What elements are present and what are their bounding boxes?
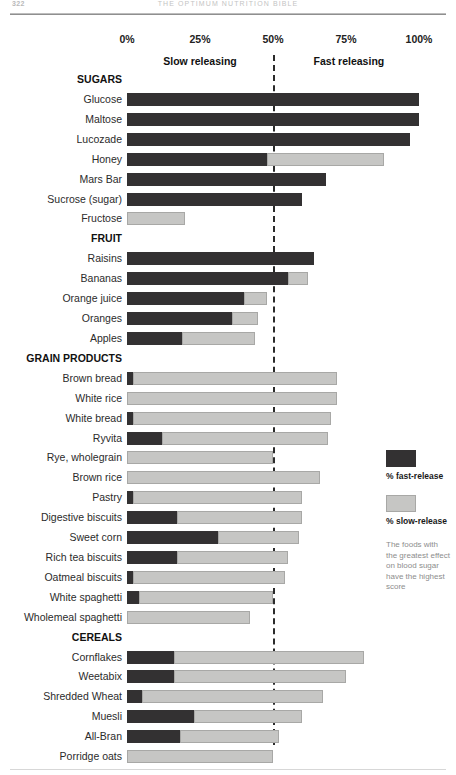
stacked-bar <box>127 511 302 524</box>
bar-segment-slow-release <box>218 531 300 544</box>
bar-row-label: Weetabix <box>4 670 122 683</box>
bar-row-label: White rice <box>4 392 122 405</box>
chart-legend: % fast-release % slow-release The foods … <box>386 450 456 593</box>
legend-label-fast-release: % fast-release <box>386 471 456 481</box>
bar-segment-slow-release <box>127 392 337 405</box>
bar-segment-fast-release <box>127 710 194 723</box>
chart-bar-row: All-Bran <box>0 730 456 743</box>
stacked-bar <box>127 173 326 186</box>
chart-bar-row: Weetabix <box>0 670 456 683</box>
x-axis-tick-labels: 0%25%50%75%100% <box>0 33 456 49</box>
legend-note: The foods with the greatest effect on bl… <box>386 540 450 593</box>
section-heading: GRAIN PRODUCTS <box>0 352 456 365</box>
band-label-slow-releasing: Slow releasing <box>163 55 237 67</box>
section-heading: SUGARS <box>0 73 456 86</box>
chart-bar-row: Mars Bar <box>0 173 456 186</box>
chart-bar-row: Wholemeal spaghetti <box>0 611 456 624</box>
bar-row-label: Porridge oats <box>4 750 122 763</box>
legend-swatch-fast-release <box>386 450 416 467</box>
bar-segment-slow-release <box>244 292 267 305</box>
bar-row-label: Oatmeal biscuits <box>4 571 122 584</box>
stacked-bar <box>127 710 302 723</box>
bar-segment-fast-release <box>127 591 139 604</box>
bar-row-label: Sucrose (sugar) <box>4 193 122 206</box>
x-axis-tick-100: 100% <box>406 33 433 45</box>
bar-row-label: White spaghetti <box>4 591 122 604</box>
bar-row-label: Raisins <box>4 252 122 265</box>
bar-row-label: Lucozade <box>4 133 122 146</box>
bar-segment-fast-release <box>127 93 419 106</box>
chart-bar-row: White rice <box>0 392 456 405</box>
bar-segment-fast-release <box>127 173 326 186</box>
bar-segment-slow-release <box>127 212 185 225</box>
bar-row-label: Bananas <box>4 272 122 285</box>
chart-page: 322 THE OPTIMUM NUTRITION BIBLE 0%25%50%… <box>0 0 456 775</box>
chart-bar-row: Orange juice <box>0 292 456 305</box>
stacked-bar <box>127 193 302 206</box>
bar-segment-slow-release <box>133 412 332 425</box>
chart-bar-row: Ryvita <box>0 432 456 445</box>
bar-row-label: Rye, wholegrain <box>4 451 122 464</box>
stacked-bar <box>127 93 419 106</box>
chart-bar-row: Maltose <box>0 113 456 126</box>
bar-segment-slow-release <box>288 272 308 285</box>
chart-bar-row: Bananas <box>0 272 456 285</box>
bar-row-label: Mars Bar <box>4 173 122 186</box>
chart-bar-row: Lucozade <box>0 133 456 146</box>
chart-bar-row: Shredded Wheat <box>0 690 456 703</box>
bar-segment-fast-release <box>127 312 232 325</box>
stacked-bar <box>127 611 250 624</box>
stacked-bar <box>127 432 328 445</box>
bar-segment-slow-release <box>162 432 328 445</box>
stacked-bar <box>127 750 273 763</box>
stacked-bar <box>127 372 337 385</box>
bar-segment-slow-release <box>127 471 320 484</box>
x-axis-tick-50: 50% <box>262 33 283 45</box>
bar-segment-fast-release <box>127 252 314 265</box>
legend-label-slow-release: % slow-release <box>386 516 456 526</box>
bar-segment-slow-release <box>133 372 337 385</box>
stacked-bar <box>127 392 337 405</box>
running-head: 322 THE OPTIMUM NUTRITION BIBLE <box>0 0 456 18</box>
stacked-bar <box>127 292 267 305</box>
bar-segment-slow-release <box>127 611 250 624</box>
bar-segment-fast-release <box>127 651 174 664</box>
stacked-bar <box>127 730 279 743</box>
bar-segment-slow-release <box>267 153 384 166</box>
chart-bar-row: Cornflakes <box>0 651 456 664</box>
chart-bar-row: Apples <box>0 332 456 345</box>
bar-segment-slow-release <box>194 710 302 723</box>
bar-row-label: Fructose <box>4 212 122 225</box>
bar-row-label: Rich tea biscuits <box>4 551 122 564</box>
bar-segment-fast-release <box>127 531 218 544</box>
bar-row-label: Apples <box>4 332 122 345</box>
x-axis-tick-25: 25% <box>189 33 210 45</box>
band-label-fast-releasing: Fast releasing <box>314 55 385 67</box>
bar-segment-slow-release <box>133 571 285 584</box>
bar-row-label: Wholemeal spaghetti <box>4 611 122 624</box>
bar-row-label: Maltose <box>4 113 122 126</box>
x-axis-tick-75: 75% <box>335 33 356 45</box>
stacked-bar <box>127 272 308 285</box>
stacked-bar <box>127 113 419 126</box>
stacked-bar <box>127 571 285 584</box>
bar-row-label: Digestive biscuits <box>4 511 122 524</box>
bar-segment-slow-release <box>177 551 288 564</box>
stacked-bar <box>127 551 288 564</box>
header-rule <box>10 13 446 15</box>
bar-segment-fast-release <box>127 670 174 683</box>
bar-segment-fast-release <box>127 730 180 743</box>
bar-row-label: Honey <box>4 153 122 166</box>
section-heading-label: FRUIT <box>91 232 122 245</box>
bar-segment-slow-release <box>174 670 346 683</box>
stacked-bar <box>127 591 273 604</box>
chart-bar-row: White bread <box>0 412 456 425</box>
chart-bar-row: Sucrose (sugar) <box>0 193 456 206</box>
chart-bar-row: Raisins <box>0 252 456 265</box>
bar-row-label: All-Bran <box>4 730 122 743</box>
bar-segment-slow-release <box>127 451 273 464</box>
bar-row-label: Oranges <box>4 312 122 325</box>
bar-row-label: Glucose <box>4 93 122 106</box>
bar-segment-slow-release <box>174 651 364 664</box>
x-axis-tick-0: 0% <box>119 33 134 45</box>
